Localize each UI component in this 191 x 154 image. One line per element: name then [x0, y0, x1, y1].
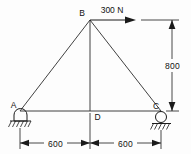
dim-arrowhead-top — [169, 20, 176, 29]
dim-arrowhead-left-d — [81, 140, 90, 146]
pin-support-hatching — [9, 121, 32, 127]
truss-members — [20, 20, 161, 111]
node-label-d: D — [95, 112, 101, 122]
node-label-b: B — [79, 8, 85, 18]
roller-support-c — [151, 112, 172, 130]
member-ab — [20, 20, 90, 111]
dimension-label-span-right: 600 — [118, 139, 133, 149]
dim-arrowhead-left-a — [20, 140, 29, 146]
dimension-spans — [20, 113, 161, 149]
dimension-label-height: 800 — [165, 61, 180, 71]
member-bc — [90, 20, 161, 111]
roller-support-wheel — [156, 112, 167, 123]
roller-support-hatching — [151, 124, 170, 130]
node-label-a: A — [11, 100, 17, 110]
dim-arrowhead-bottom — [169, 102, 176, 111]
load-arrow-300n — [90, 16, 136, 23]
dim-arrowhead-right-d — [90, 140, 99, 146]
dimension-label-span-left: 600 — [48, 139, 63, 149]
load-arrow-head — [125, 16, 136, 23]
truss-diagram: B A C D 300 N 800 600 600 — [0, 0, 191, 154]
node-label-c: C — [153, 101, 159, 111]
load-label-300n: 300 N — [101, 5, 124, 15]
dim-arrowhead-right-c — [152, 140, 161, 146]
